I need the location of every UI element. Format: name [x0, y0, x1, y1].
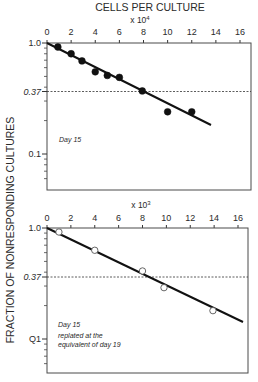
bottom-annotation-replated: replated at the — [58, 332, 103, 340]
x-tick-label: 14 — [211, 27, 221, 37]
x-tick-label: 10 — [161, 213, 171, 223]
x-tick-label: 2 — [69, 27, 74, 37]
x-tick-label: 4 — [92, 213, 97, 223]
x-tick-label: 6 — [117, 27, 122, 37]
x-tick-label: 10 — [163, 27, 173, 37]
figure: CELLS PER CULTURE FRACTION OF NONRESPOND… — [0, 0, 258, 382]
x-tick-label: 8 — [141, 27, 146, 37]
data-point — [188, 108, 195, 115]
data-point — [92, 68, 99, 75]
data-point — [54, 44, 61, 51]
top-x-multiplier: x 104 — [130, 15, 150, 25]
data-point — [68, 50, 75, 57]
data-point — [79, 57, 86, 64]
data-point — [92, 247, 98, 253]
data-point — [139, 88, 146, 95]
top-chart: x 104 0246810121416 1.0 0.37 0.1 Day 15 — [23, 15, 251, 190]
bottom-annotation-day: Day 15 — [58, 321, 80, 329]
top-data-points — [54, 44, 195, 116]
x-tick-label: 16 — [235, 27, 245, 37]
bottom-y-tick-037: 0.37 — [23, 272, 42, 282]
x-tick-label: 8 — [140, 213, 145, 223]
x-tick-label: 12 — [187, 27, 197, 37]
x-tick-label: 0 — [44, 213, 49, 223]
y-axis-label: FRACTION OF NONRESPONDING CULTURES — [4, 117, 16, 344]
top-y-tick-037: 0.37 — [23, 87, 42, 97]
top-annotation: Day 15 — [59, 136, 81, 144]
bottom-plot-frame — [47, 228, 248, 373]
x-tick-label: 6 — [116, 213, 121, 223]
top-y-tick-1: 1.0 — [28, 38, 41, 48]
top-plot-frame — [47, 43, 251, 190]
data-point — [116, 74, 123, 81]
figure-title: CELLS PER CULTURE — [95, 1, 205, 13]
data-point — [139, 268, 145, 274]
data-point — [104, 72, 111, 79]
data-point — [164, 108, 171, 115]
x-tick-label: 0 — [44, 27, 49, 37]
bottom-x-multiplier: x 103 — [131, 200, 151, 210]
x-tick-label: 2 — [68, 213, 73, 223]
x-tick-label: 4 — [93, 27, 98, 37]
bottom-chart: x 103 0246810121416 1.0 0.37 Q1 Day 15 r… — [23, 200, 248, 373]
data-point — [161, 284, 167, 290]
bottom-annotation-equivalent: equivalent of day 19 — [58, 341, 121, 349]
x-tick-label: 14 — [209, 213, 219, 223]
top-y-tick-01: 0.1 — [28, 149, 41, 159]
top-x-tick-labels: 0246810121416 — [44, 27, 245, 43]
bottom-y-tick-01: Q1 — [29, 334, 41, 344]
data-point — [56, 229, 62, 235]
data-point — [210, 307, 216, 313]
bottom-y-tick-1: 1.0 — [28, 223, 41, 233]
bottom-x-tick-labels: 0246810121416 — [44, 213, 243, 228]
x-tick-label: 16 — [233, 213, 243, 223]
x-tick-label: 12 — [185, 213, 195, 223]
